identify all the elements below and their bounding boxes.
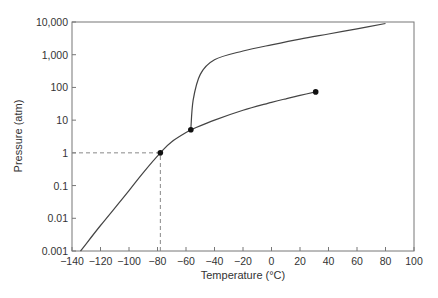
- y-axis-ticks: 0.0010.010.11101001,00010,000: [36, 16, 76, 257]
- y-tick-label: 10: [56, 114, 68, 126]
- y-axis-label: Pressure (atm): [12, 100, 24, 173]
- phase-curves: [81, 24, 386, 252]
- y-tick-label: 100: [50, 81, 68, 93]
- x-tick-label: 100: [405, 255, 423, 267]
- phase-diagram-chart: −140−120−100−80−60−40−20020406080100 0.0…: [0, 0, 438, 298]
- melting-curve: [191, 24, 386, 130]
- y-tick-label: 0.01: [48, 212, 69, 224]
- plot-frame: [72, 22, 414, 251]
- x-tick-label: 80: [380, 255, 392, 267]
- critical-point: [313, 89, 319, 95]
- sublimation-point-1atm: [158, 150, 164, 156]
- x-tick-label: −80: [149, 255, 167, 267]
- y-tick-label: 0.1: [53, 180, 68, 192]
- y-tick-label: 10,000: [36, 16, 68, 28]
- x-tick-label: 0: [269, 255, 275, 267]
- x-tick-label: 40: [323, 255, 335, 267]
- y-tick-label: 1: [62, 147, 68, 159]
- x-tick-label: −60: [177, 255, 195, 267]
- x-tick-label: −40: [206, 255, 224, 267]
- x-tick-label: 60: [351, 255, 363, 267]
- y-tick-label: 0.001: [42, 245, 68, 257]
- sublimation-curve: [81, 130, 191, 251]
- y-tick-label: 1,000: [42, 49, 68, 61]
- x-tick-label: −120: [89, 255, 113, 267]
- x-tick-label: 20: [294, 255, 306, 267]
- x-tick-label: −100: [117, 255, 141, 267]
- triple-point: [188, 127, 194, 133]
- x-tick-label: −20: [234, 255, 252, 267]
- x-axis-ticks: −140−120−100−80−60−40−20020406080100: [60, 247, 423, 267]
- vaporization-curve: [191, 92, 316, 130]
- marked-points: [158, 89, 319, 156]
- x-axis-label: Temperature (°C): [201, 269, 285, 281]
